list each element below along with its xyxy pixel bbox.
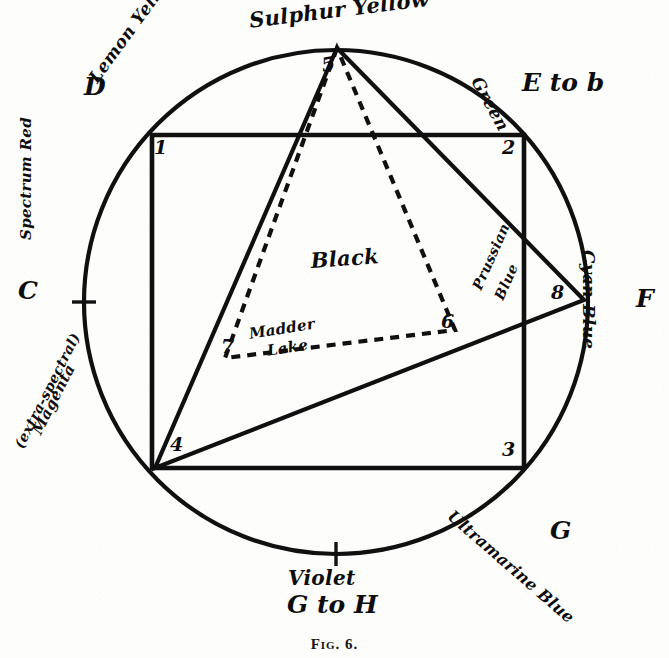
label-letter-d: D bbox=[84, 74, 106, 99]
colour-circle bbox=[84, 50, 588, 554]
label-black-center: Black bbox=[310, 245, 379, 271]
vertex-label-2: 2 bbox=[502, 138, 515, 157]
vertex-label-8: 8 bbox=[551, 283, 564, 302]
figure-colour-circle: Sulphur Yellow Lemon Yellow Green Spectr… bbox=[0, 0, 669, 658]
inscribed-square bbox=[152, 135, 524, 468]
vertex-label-4: 4 bbox=[170, 435, 183, 454]
label-letter-e-to-b: E to b bbox=[522, 70, 604, 95]
dashed-triangle-5-7-6 bbox=[225, 48, 455, 358]
label-violet: Violet bbox=[288, 568, 355, 588]
figure-caption: Fig. 6. bbox=[0, 636, 669, 653]
vertex-label-3: 3 bbox=[502, 440, 515, 459]
vertex-label-1: 1 bbox=[154, 138, 167, 157]
label-letter-g-to-h: G to H bbox=[287, 592, 378, 617]
label-spectrum-red: Spectrum Red bbox=[19, 117, 34, 240]
label-letter-g: G bbox=[550, 518, 571, 543]
label-cyan-blue: Cyan Blue bbox=[580, 250, 597, 349]
label-letter-f: F bbox=[636, 286, 654, 311]
vertex-label-6: 6 bbox=[441, 312, 454, 331]
label-letter-c: C bbox=[18, 278, 38, 303]
vertex-label-7: 7 bbox=[221, 337, 234, 356]
